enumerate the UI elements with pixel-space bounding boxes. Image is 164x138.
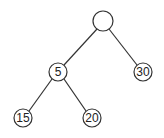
node-label: 15 bbox=[16, 111, 30, 125]
edge-5-20 bbox=[64, 79, 86, 111]
node-label: 5 bbox=[55, 65, 62, 79]
edge-root-5 bbox=[64, 29, 97, 65]
binary-tree-diagram: 5 30 15 20 bbox=[0, 0, 164, 138]
edge-root-30 bbox=[109, 29, 137, 65]
tree-node-root bbox=[93, 11, 113, 31]
tree-node-5: 5 bbox=[49, 63, 67, 81]
edges bbox=[29, 29, 137, 111]
node-label: 30 bbox=[136, 65, 150, 79]
node-label: 20 bbox=[85, 111, 99, 125]
tree-node-30: 30 bbox=[134, 63, 152, 81]
node-circle bbox=[93, 11, 113, 31]
tree-node-15: 15 bbox=[14, 109, 32, 127]
tree-node-20: 20 bbox=[83, 109, 101, 127]
edge-5-15 bbox=[29, 79, 52, 111]
